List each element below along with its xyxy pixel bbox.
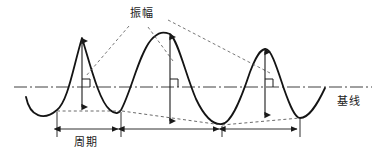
trough-level-line-3 (222, 118, 300, 125)
wave-graphic (0, 0, 383, 160)
baseline-label: 基线 (337, 95, 360, 108)
right-angle-marker-2 (170, 79, 178, 87)
right-angle-marker-1 (82, 79, 90, 87)
right-angle-marker-3 (265, 79, 273, 87)
amplitude-leader-line-2 (148, 27, 173, 61)
waveform-diagram: 振幅 基线 周期 (0, 0, 383, 160)
amplitude-leader-line-1 (86, 26, 129, 76)
amplitude-label: 振幅 (130, 7, 153, 20)
sine-wave-path (26, 33, 325, 124)
period-label: 周期 (74, 136, 97, 149)
